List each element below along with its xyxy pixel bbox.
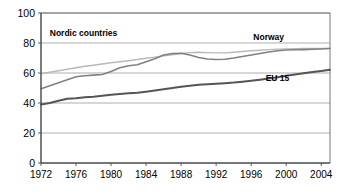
series-annotation-nordic-countries: Nordic countries [50, 28, 118, 38]
x-tick-label-1976: 1976 [65, 169, 88, 180]
y-tick-label-80: 80 [23, 37, 35, 49]
series-annotation-eu-15: EU 15 [266, 73, 290, 83]
y-tick-label-0: 0 [29, 157, 35, 169]
x-tick-label-1972: 1972 [30, 169, 53, 180]
x-tick-label-1980: 1980 [100, 169, 123, 180]
y-tick-label-60: 60 [23, 67, 35, 79]
x-tick-label-1992: 1992 [205, 169, 228, 180]
chart-canvas: 0204060801001972197619801984198819921996… [0, 0, 350, 195]
y-tick-label-40: 40 [23, 97, 35, 109]
y-tick-label-100: 100 [17, 7, 35, 19]
x-tick-label-1988: 1988 [170, 169, 193, 180]
y-tick-label-20: 20 [23, 127, 35, 139]
line-chart-figure: 0204060801001972197619801984198819921996… [0, 0, 350, 195]
x-tick-label-2004: 2004 [310, 169, 333, 180]
x-tick-label-1984: 1984 [135, 169, 158, 180]
x-tick-label-2000: 2000 [275, 169, 298, 180]
series-annotation-norway: Norway [253, 32, 284, 42]
x-tick-label-1996: 1996 [240, 169, 263, 180]
